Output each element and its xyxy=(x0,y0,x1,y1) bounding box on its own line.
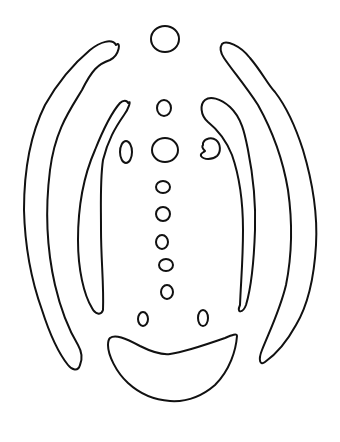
right-inner-band xyxy=(202,98,256,311)
center-oval-5 xyxy=(159,259,173,271)
right-notched-oval xyxy=(201,138,220,159)
center-oval-3 xyxy=(156,207,170,221)
left-side-oval xyxy=(120,141,132,163)
center-oval-6 xyxy=(161,285,173,299)
center-oval-1 xyxy=(157,100,171,116)
bottom-crescent xyxy=(108,335,237,402)
right-outer-band xyxy=(221,43,317,364)
top-circle xyxy=(151,26,179,52)
lower-right-oval xyxy=(198,310,208,326)
left-outer-band xyxy=(24,41,119,369)
center-oval-2 xyxy=(156,181,170,193)
left-inner-band xyxy=(78,101,130,314)
center-oval-large xyxy=(152,138,178,162)
center-oval-4 xyxy=(156,235,168,249)
lower-left-oval xyxy=(138,312,148,326)
line-drawing-figure xyxy=(0,0,340,442)
